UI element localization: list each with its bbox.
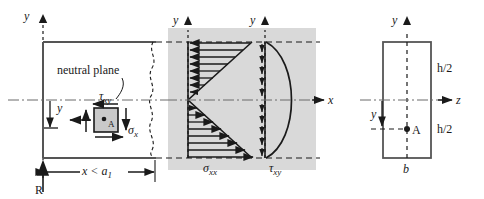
half-height-top-label: h/2 (437, 61, 452, 75)
span-dimension-label: x < a1 (81, 164, 112, 180)
x-axis-label: x (327, 93, 334, 107)
left-normal-label: σx (128, 123, 138, 139)
point-a-marker (102, 117, 107, 122)
neutral-plane-label: neutral plane (57, 63, 119, 77)
section-z-axis-label: z (455, 93, 461, 107)
left-depth-dimension (44, 101, 58, 128)
section-point-a-marker (404, 126, 410, 132)
sigma-y-axis-label: y (172, 13, 179, 27)
section-point-a-label: A (412, 123, 421, 137)
left-y-axis (39, 14, 47, 178)
reaction-label: R (35, 183, 43, 197)
tau-y-axis-label: y (249, 13, 256, 27)
left-depth-label: y (56, 101, 63, 115)
section-width-label: b (403, 162, 409, 176)
half-height-bottom-label: h/2 (437, 122, 452, 136)
neutral-plane-leader (116, 78, 123, 99)
section-depth-label: y (370, 107, 377, 121)
left-y-axis-label: y (23, 9, 30, 23)
left-shear-label: τxy (99, 89, 111, 105)
section-y-axis-label: y (391, 13, 398, 27)
point-a-label: A (108, 119, 115, 129)
section-y-axis (403, 16, 411, 158)
figure-canvas: y neutral plane y A τxy σx R x < a1 (0, 0, 484, 199)
